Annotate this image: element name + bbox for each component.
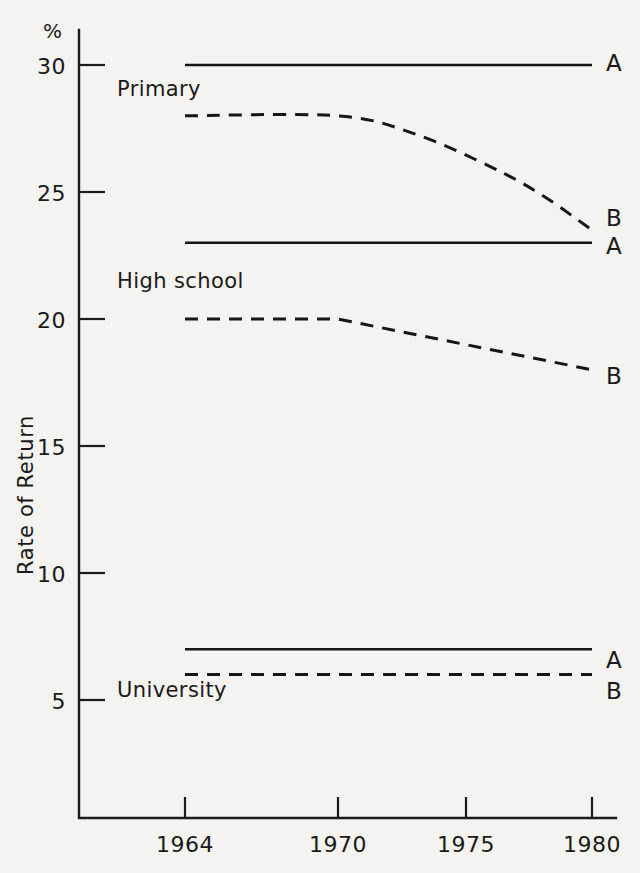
x-tick-marks — [185, 797, 592, 818]
series-primary-b — [185, 114, 592, 230]
series-label-university-b: B — [606, 678, 622, 704]
group-label-university: University — [117, 678, 227, 702]
y-tick-label-15: 15 — [37, 435, 66, 460]
x-tick-label-1980: 1980 — [563, 832, 621, 857]
series-highschool-b — [185, 319, 592, 370]
chart-figure: % 30 25 20 15 10 5 Rate of Return 1964 1… — [0, 0, 640, 873]
series-label-university-a: A — [606, 647, 622, 673]
series-layer — [185, 65, 592, 675]
group-annotation-layer: Primary High school University — [117, 77, 244, 702]
group-label-primary: Primary — [117, 77, 201, 101]
series-label-highschool-b: B — [606, 363, 622, 389]
rate-of-return-line-chart: % 30 25 20 15 10 5 Rate of Return 1964 1… — [0, 0, 640, 873]
series-label-primary-b: B — [606, 205, 622, 231]
y-axis-title: Rate of Return — [14, 415, 38, 575]
y-tick-label-10: 10 — [37, 562, 66, 587]
y-tick-label-20: 20 — [37, 308, 66, 333]
y-tick-label-5: 5 — [52, 689, 67, 714]
y-tick-label-25: 25 — [37, 181, 66, 206]
y-tick-label-30: 30 — [37, 54, 66, 79]
series-label-highschool-a: A — [606, 233, 622, 259]
group-label-high-school: High school — [117, 269, 244, 293]
y-axis-unit-label: % — [43, 19, 62, 43]
series-label-layer: A B A B A B — [606, 50, 622, 704]
x-tick-label-1975: 1975 — [437, 832, 495, 857]
series-label-primary-a: A — [606, 50, 622, 76]
x-tick-label-1970: 1970 — [309, 832, 367, 857]
x-tick-label-1964: 1964 — [156, 832, 214, 857]
y-tick-marks — [79, 65, 105, 700]
